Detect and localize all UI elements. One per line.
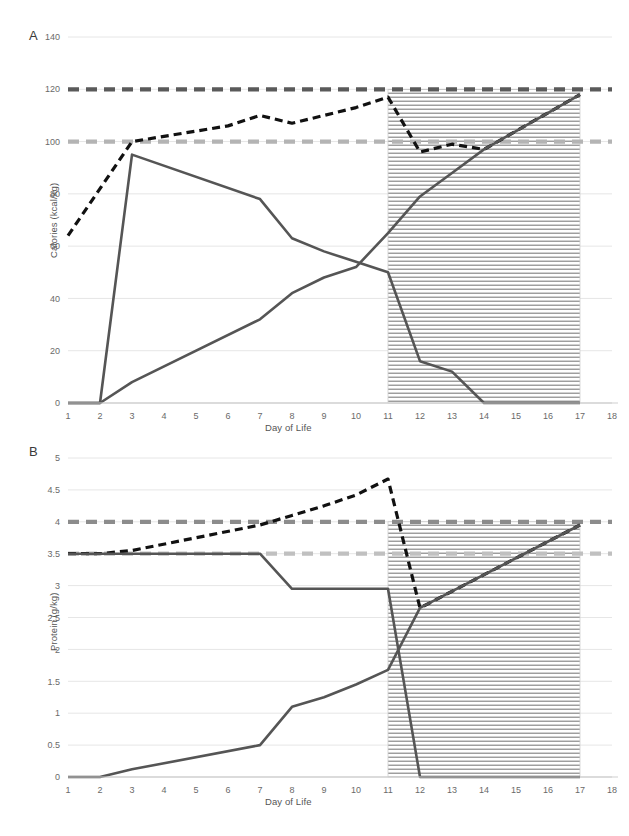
svg-text:13: 13	[447, 411, 457, 421]
svg-text:3: 3	[129, 411, 134, 421]
panel-b-x-axis-title: Day of Life	[265, 796, 312, 807]
panel-b-plot: 00.511.522.533.544.551234567891011121314…	[0, 436, 629, 836]
svg-text:7: 7	[257, 411, 262, 421]
svg-text:20: 20	[50, 346, 60, 356]
svg-text:1.5: 1.5	[47, 677, 60, 687]
svg-text:18: 18	[607, 411, 617, 421]
panel-b: B 00.511.522.533.544.5512345678910111213…	[0, 436, 629, 836]
svg-text:0: 0	[55, 398, 60, 408]
svg-text:40: 40	[50, 294, 60, 304]
svg-text:5: 5	[193, 785, 198, 795]
svg-text:11: 11	[383, 785, 392, 795]
svg-text:8: 8	[289, 411, 294, 421]
svg-text:120: 120	[45, 84, 60, 94]
svg-text:3: 3	[129, 785, 134, 795]
svg-text:6: 6	[225, 411, 230, 421]
svg-text:12: 12	[415, 785, 425, 795]
svg-text:12: 12	[415, 411, 425, 421]
svg-text:18: 18	[607, 785, 617, 795]
svg-text:4: 4	[55, 517, 60, 527]
svg-text:17: 17	[575, 411, 585, 421]
svg-text:14: 14	[479, 785, 489, 795]
svg-text:100: 100	[45, 137, 60, 147]
svg-text:0.5: 0.5	[47, 740, 60, 750]
svg-text:2: 2	[97, 411, 102, 421]
svg-text:15: 15	[511, 785, 521, 795]
svg-text:4: 4	[161, 411, 166, 421]
svg-text:7: 7	[257, 785, 262, 795]
svg-text:1: 1	[55, 708, 60, 718]
svg-text:8: 8	[289, 785, 294, 795]
svg-text:9: 9	[321, 785, 326, 795]
svg-text:13: 13	[447, 785, 457, 795]
svg-text:11: 11	[383, 411, 392, 421]
svg-text:2: 2	[97, 785, 102, 795]
svg-text:0: 0	[55, 772, 60, 782]
panel-a: A 02040608010012014012345678910111213141…	[0, 0, 629, 436]
svg-text:5: 5	[193, 411, 198, 421]
svg-text:6: 6	[225, 785, 230, 795]
panel-a-y-axis-title: Calories (kcal/kg)	[48, 183, 59, 258]
svg-text:4: 4	[161, 785, 166, 795]
panel-b-y-axis-title: Protein (g/kg)	[48, 593, 59, 651]
svg-text:17: 17	[575, 785, 585, 795]
svg-text:16: 16	[543, 411, 553, 421]
svg-text:1: 1	[65, 411, 70, 421]
svg-text:3: 3	[55, 581, 60, 591]
svg-text:4.5: 4.5	[47, 485, 60, 495]
panel-a-plot: 0204060801001201401234567891011121314151…	[0, 0, 629, 436]
svg-text:9: 9	[321, 411, 326, 421]
panel-a-x-axis-title: Day of Life	[265, 422, 312, 433]
svg-text:140: 140	[45, 32, 60, 42]
svg-text:3.5: 3.5	[47, 549, 60, 559]
svg-text:1: 1	[65, 785, 70, 795]
svg-text:16: 16	[543, 785, 553, 795]
figure-root: A 02040608010012014012345678910111213141…	[0, 0, 629, 836]
svg-text:10: 10	[351, 785, 361, 795]
svg-text:14: 14	[479, 411, 489, 421]
svg-text:15: 15	[511, 411, 521, 421]
svg-text:5: 5	[55, 453, 60, 463]
svg-text:10: 10	[351, 411, 361, 421]
